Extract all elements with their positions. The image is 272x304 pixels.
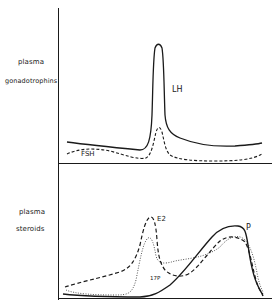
fsh-label: FSH — [81, 151, 95, 158]
lh-label: LH — [172, 86, 182, 94]
top-ylabel-line1: plasma — [18, 59, 44, 66]
e2-curve — [65, 217, 263, 294]
top-ylabel-line2: gonadotrophins — [5, 78, 57, 85]
e2-label: E2 — [157, 216, 166, 223]
17p-label: 17P — [150, 276, 160, 282]
fsh-curve — [67, 128, 262, 162]
hormone-cycle-diagram: plasma gonadotrophins LH FSH plasma ster… — [0, 0, 272, 304]
bottom-ylabel-line2: steroids — [16, 226, 45, 233]
17p-curve — [66, 236, 263, 295]
p-curve — [63, 226, 263, 297]
diagram-canvas — [0, 0, 272, 304]
p-label: P — [246, 224, 251, 232]
bottom-ylabel-line1: plasma — [19, 209, 45, 216]
lh-curve — [67, 44, 262, 150]
